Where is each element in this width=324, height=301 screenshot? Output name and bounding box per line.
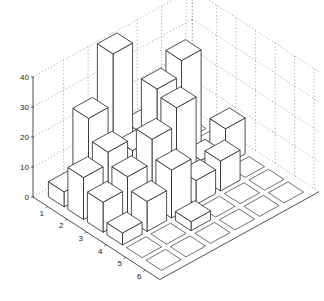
row-tick bbox=[85, 232, 87, 234]
row-tick-label: 3 bbox=[78, 234, 83, 243]
row-tick-label: 1 bbox=[39, 209, 44, 218]
z-tick-label: 20 bbox=[20, 133, 29, 142]
row-tick-label: 4 bbox=[98, 247, 103, 256]
row-tick bbox=[124, 257, 126, 259]
z-tick-label: 0 bbox=[25, 193, 30, 202]
row-tick-label: 2 bbox=[59, 221, 64, 230]
z-tick-label: 30 bbox=[20, 103, 29, 112]
row-tick-label: 5 bbox=[117, 259, 122, 268]
z-tick-label: 40 bbox=[20, 73, 29, 82]
row-tick bbox=[104, 245, 106, 247]
row-tick bbox=[65, 219, 67, 221]
row-tick bbox=[143, 270, 145, 272]
z-tick-label: 10 bbox=[20, 163, 29, 172]
row-tick-label: 6 bbox=[137, 272, 142, 281]
bar3d-chart: 010203040123456 bbox=[0, 0, 324, 301]
row-tick bbox=[46, 207, 48, 209]
grid-line bbox=[192, 19, 319, 102]
